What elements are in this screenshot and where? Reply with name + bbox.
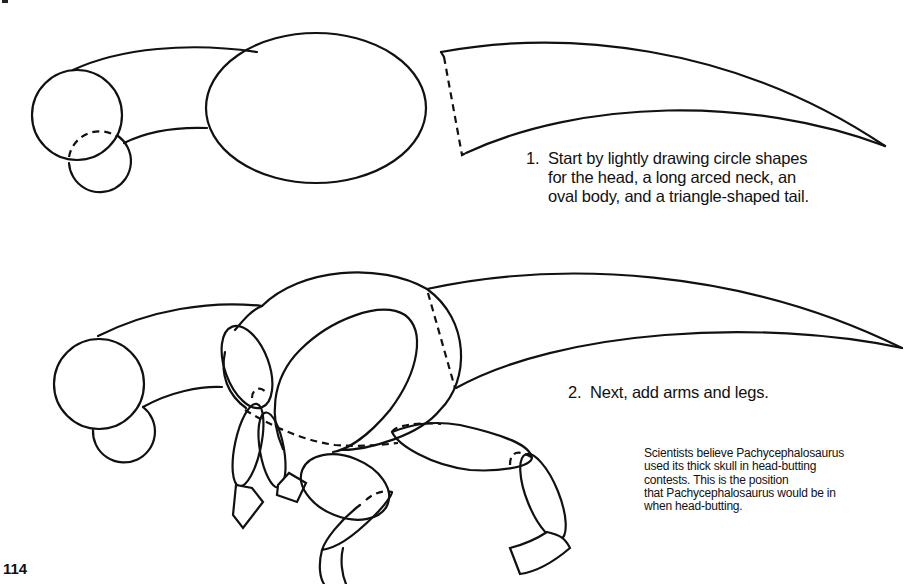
step-1-instruction: 1. Start by lightly drawing circle shape… xyxy=(526,149,866,206)
step-2-instruction: 2. Next, add arms and legs. xyxy=(568,383,868,402)
step1-body-oval xyxy=(206,33,426,183)
step1-snout-circle xyxy=(69,136,131,192)
step2-lower-leg-right xyxy=(342,548,346,584)
step2-head-circle xyxy=(54,339,144,429)
page-number: 114 xyxy=(3,560,27,577)
step2-tail-bottom xyxy=(456,332,902,388)
step-1-number: 1. xyxy=(526,149,548,206)
step2-shin xyxy=(322,492,392,550)
step2-back-shin xyxy=(511,448,575,545)
step2-lower-leg-left xyxy=(320,550,324,584)
step2-neck-top xyxy=(98,304,262,336)
step-1-text: Start by lightly drawing circle shapes f… xyxy=(548,149,809,206)
step-2-drawing xyxy=(54,272,902,584)
fact-paragraph: Scientists believe Pachycephalosaurus us… xyxy=(644,447,884,513)
step1-tail-top xyxy=(441,43,885,146)
step1-neck-top xyxy=(73,47,257,70)
step-2-number: 2. xyxy=(568,383,590,402)
step2-tail-dashed-base xyxy=(428,293,455,388)
step2-neck-bottom xyxy=(143,387,222,407)
book-page: 1. Start by lightly drawing circle shape… xyxy=(0,0,908,584)
step1-snout-hidden xyxy=(69,131,116,157)
step2-shoulder-oval xyxy=(212,319,283,415)
step2-hand-left xyxy=(233,485,263,528)
step1-tail-dashed-base xyxy=(444,57,466,155)
step1-tail-base xyxy=(441,52,444,57)
step2-shoulder-hidden xyxy=(252,389,267,398)
step1-neck-bottom xyxy=(124,128,207,143)
step1-head-circle xyxy=(32,70,122,160)
step-2-text: Next, add arms and legs. xyxy=(590,383,769,402)
step1-tail-bottom xyxy=(466,110,885,153)
step2-back-foot xyxy=(510,532,570,574)
